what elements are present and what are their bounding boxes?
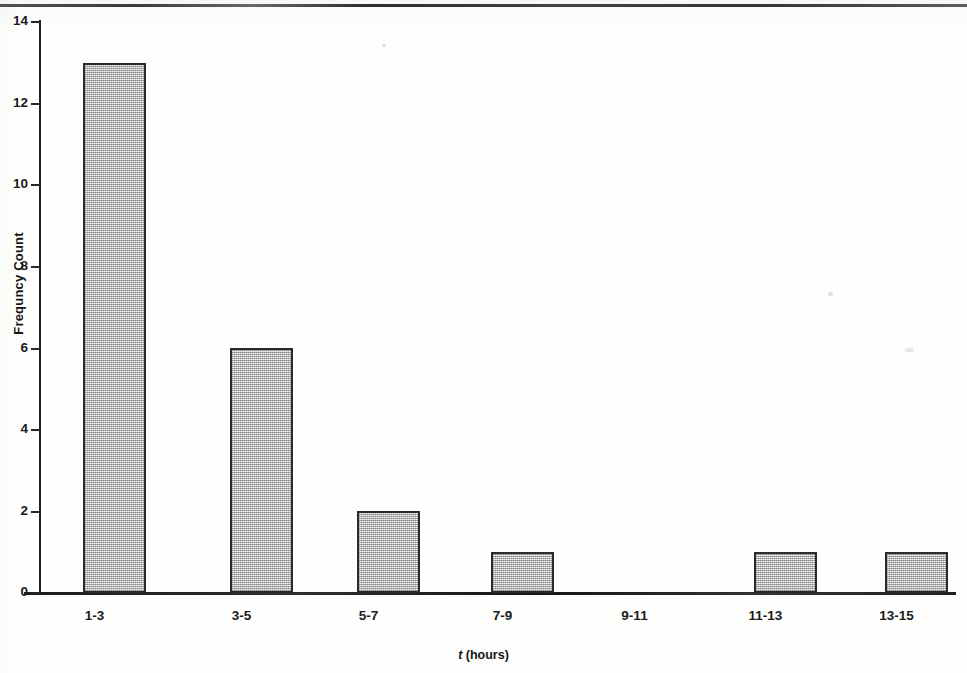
x-tick-label-7-9: 7-9 (446, 608, 559, 623)
y-tick-label: 4 (2, 422, 28, 436)
y-tick (31, 429, 40, 431)
y-tick (31, 592, 40, 594)
y-tick (31, 266, 40, 268)
x-tick-label-13-15: 13-15 (840, 608, 953, 623)
histogram-chart: Frequncy Count 14 12 10 8 6 4 2 0 1-3 3-… (0, 0, 967, 673)
plot-area (40, 22, 955, 593)
y-tick-label: 14 (2, 14, 28, 28)
bar-7-9 (491, 552, 554, 593)
y-tick (31, 103, 40, 105)
x-axis-units: (hours) (466, 648, 509, 662)
x-axis-variable: t (458, 648, 462, 662)
bar-13-15 (885, 552, 948, 593)
y-tick-label: 8 (2, 259, 28, 273)
y-axis-title: Frequncy Count (11, 174, 26, 394)
x-tick-label-5-7: 5-7 (312, 608, 425, 623)
y-tick-label: 0 (2, 585, 28, 599)
y-tick-label: 12 (2, 96, 28, 110)
y-tick-label: 2 (2, 504, 28, 518)
y-tick-label: 10 (2, 177, 28, 191)
y-tick-label: 6 (2, 341, 28, 355)
x-axis-title: t (hours) (0, 648, 967, 662)
bar-11-13 (754, 552, 817, 593)
x-tick-label-9-11: 9-11 (578, 608, 691, 623)
x-tick-label-3-5: 3-5 (185, 608, 298, 623)
y-tick (31, 184, 40, 186)
x-tick-label-1-3: 1-3 (38, 608, 151, 623)
bar-1-3 (83, 63, 146, 593)
x-tick-label-11-13: 11-13 (709, 608, 822, 623)
y-tick (31, 21, 40, 23)
y-tick (31, 511, 40, 513)
bar-5-7 (357, 511, 420, 593)
y-tick (31, 348, 40, 350)
bar-3-5 (230, 348, 293, 593)
